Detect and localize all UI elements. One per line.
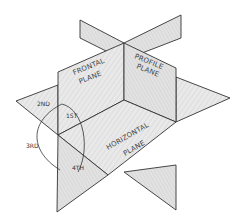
planes-diagram: FRONTAL PLANE PROFILE PLANE HORIZONTAL P… <box>0 0 244 223</box>
horizontal-plane-right <box>176 77 230 122</box>
quadrant-3rd-label: 3RD <box>26 142 39 149</box>
quadrant-4th-label: 4TH <box>72 164 84 171</box>
quadrant-1st-label: 1ST <box>66 112 78 119</box>
profile-plane-lower <box>124 165 176 210</box>
quadrant-2nd-label: 2ND <box>37 100 50 107</box>
